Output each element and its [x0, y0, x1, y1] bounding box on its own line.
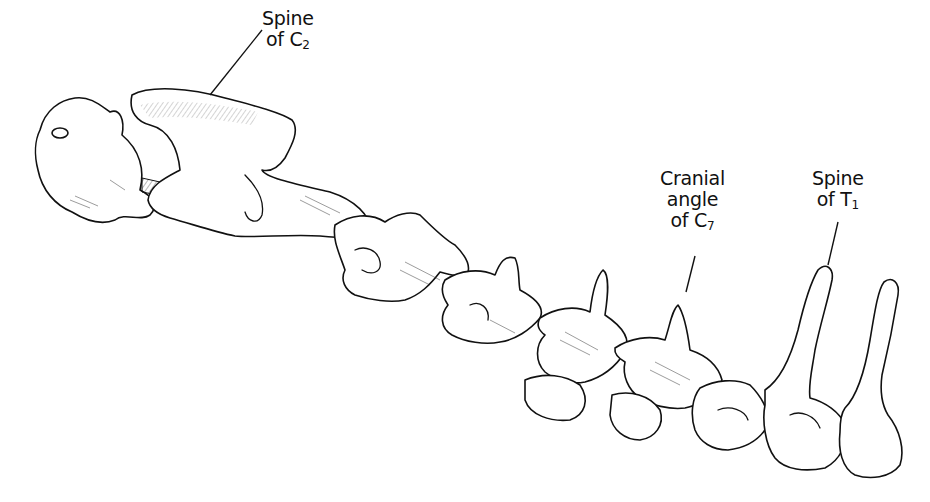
vertebral-column-drawing — [0, 0, 930, 502]
vertebra-c7 — [692, 381, 768, 450]
vertebra-t1 — [764, 266, 846, 470]
leader-cranial-angle-c7 — [686, 256, 695, 292]
vertebrae-diagram: Spine of C2 Cranial angle of C7 Spine of… — [0, 0, 930, 502]
axis-c2 — [131, 89, 372, 238]
label-cranial-angle-c7: Cranial angle of C7 — [660, 168, 725, 237]
label-spine-c2: Spine of C2 — [262, 8, 314, 56]
leader-spine-c2 — [210, 30, 262, 95]
vertebra-t2 — [840, 280, 902, 478]
label-spine-t1: Spine of T1 — [812, 168, 864, 216]
leader-spine-t1 — [828, 222, 838, 265]
